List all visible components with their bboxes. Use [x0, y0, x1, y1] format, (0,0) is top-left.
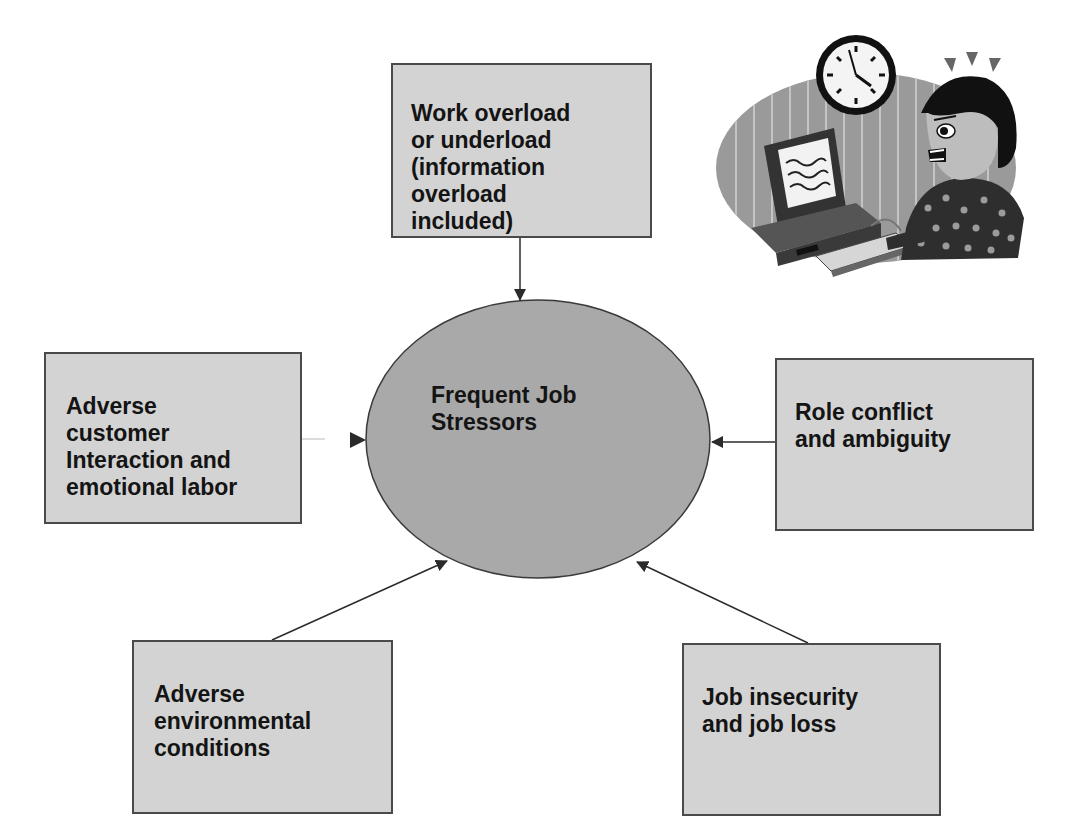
stressor-box-customer-interaction: Adverse customer Interaction and emotion…	[44, 352, 302, 524]
stressor-label: Job insecurity and job loss	[702, 684, 858, 737]
connector-bottom-left	[272, 561, 447, 640]
stressed-worker-illustration	[706, 28, 1036, 278]
stressor-box-environmental-conditions: Adverse environmental conditions	[132, 640, 393, 814]
wall-clock-icon	[816, 35, 896, 115]
stressor-label: Adverse environmental conditions	[154, 681, 311, 761]
center-label: Frequent Job Stressors	[431, 382, 631, 436]
stressor-label: Role conflict and ambiguity	[795, 399, 951, 452]
stressor-label: Work overload or underload (information …	[411, 100, 570, 234]
stressor-box-work-overload: Work overload or underload (information …	[391, 63, 652, 238]
stressor-box-role-conflict: Role conflict and ambiguity	[775, 358, 1034, 531]
stressor-label: Adverse customer Interaction and emotion…	[66, 393, 237, 500]
connector-left-arrowhead	[350, 432, 366, 448]
center-ellipse	[366, 300, 710, 578]
stress-marks-icon	[944, 52, 1001, 72]
stressor-box-job-insecurity: Job insecurity and job loss	[682, 643, 941, 816]
connector-bottom-right	[637, 562, 808, 643]
